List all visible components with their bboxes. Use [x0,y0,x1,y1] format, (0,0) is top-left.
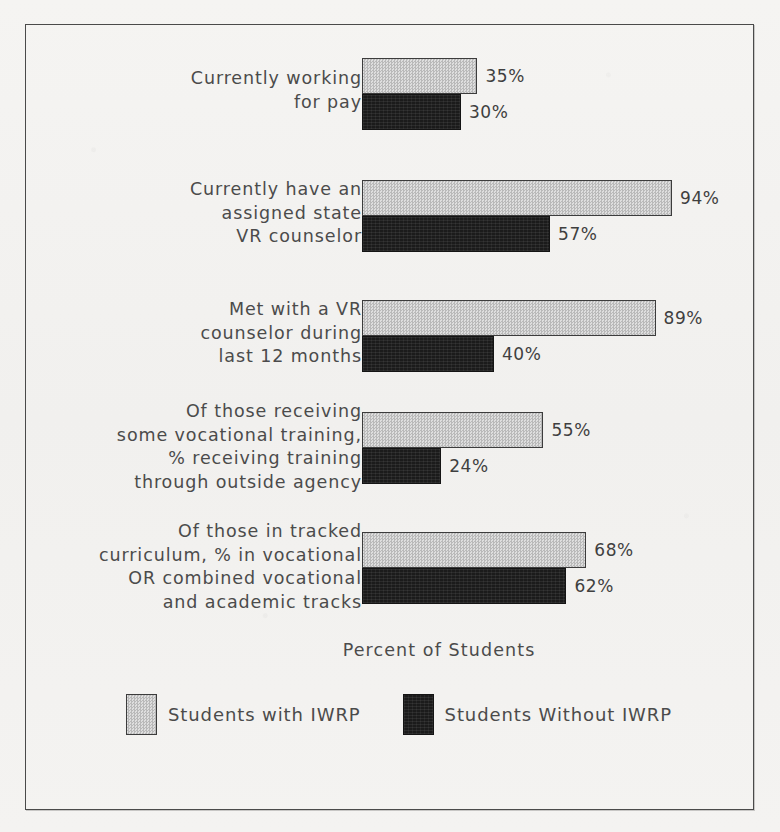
legend-item-students-with-iwrp: Students with IWRP [126,694,361,735]
legend-item-students-without-iwrp: Students Without IWRP [403,694,672,735]
bar-students-without-iwrp: 30% [362,94,461,130]
bar-pair: 94% 57% [362,180,672,252]
bar-students-with-iwrp: 68% [362,532,586,568]
bar-value-label: 62% [574,576,614,596]
bar-value-label: 68% [594,540,634,560]
chart-legend: Students with IWRP Students Without IWRP [0,694,780,735]
bar-value-label: 30% [469,102,509,122]
bar-students-without-iwrp: 24% [362,448,441,484]
bar-students-without-iwrp: 62% [362,568,566,604]
legend-label: Students with IWRP [168,704,361,725]
bar-value-label: 24% [449,456,489,476]
bar-pair: 68% 62% [362,532,586,604]
bar-value-label: 35% [485,66,525,86]
legend-label: Students Without IWRP [445,704,672,725]
bar-value-label: 55% [551,420,591,440]
bar-pair: 55% 24% [362,412,543,484]
bar-students-without-iwrp: 40% [362,336,494,372]
category-label: Of those in tracked curriculum, % in voc… [99,520,362,614]
category-label: Met with a VR counselor during last 12 m… [200,298,362,369]
bar-value-label: 57% [558,224,598,244]
bar-students-with-iwrp: 55% [362,412,543,448]
category-label: Currently have an assigned state VR coun… [190,178,362,249]
bar-chart-plot-area: Currently working for pay 35% 30% Curren… [0,0,780,832]
bar-students-with-iwrp: 94% [362,180,672,216]
category-label: Of those receiving some vocational train… [117,400,362,494]
x-axis-title: Percent of Students [0,640,780,660]
legend-swatch-light-icon [126,694,157,735]
bar-students-without-iwrp: 57% [362,216,550,252]
bar-students-with-iwrp: 89% [362,300,656,336]
category-label: Currently working for pay [191,67,362,114]
bar-pair: 35% 30% [362,58,477,130]
bar-students-with-iwrp: 35% [362,58,477,94]
legend-swatch-dark-icon [403,694,434,735]
bar-pair: 89% 40% [362,300,656,372]
bar-value-label: 94% [680,188,720,208]
bar-value-label: 89% [664,308,704,328]
bar-value-label: 40% [502,344,542,364]
